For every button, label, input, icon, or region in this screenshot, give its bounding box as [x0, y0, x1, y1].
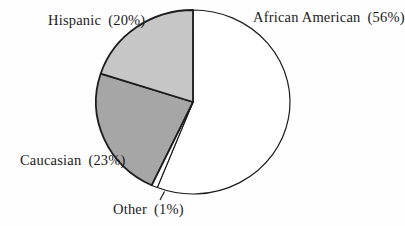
- label-hispanic-name: Hispanic: [48, 12, 101, 28]
- label-other-name: Other: [113, 201, 147, 217]
- label-african-american-name: African American: [253, 9, 360, 25]
- label-hispanic: Hispanic(20%): [48, 12, 145, 29]
- label-african-american: African American(56%): [253, 9, 405, 26]
- label-caucasian-name: Caucasian: [20, 152, 81, 168]
- label-african-american-pct: (56%): [367, 9, 404, 25]
- pie-chart: [0, 0, 405, 226]
- label-hispanic-pct: (20%): [108, 12, 145, 28]
- label-caucasian-pct: (23%): [88, 152, 125, 168]
- label-other-pct: (1%): [154, 201, 184, 217]
- other-leader-line: [160, 192, 165, 201]
- label-caucasian: Caucasian(23%): [20, 152, 126, 169]
- pie-chart-figure: Hispanic(20%) African American(56%) Cauc…: [0, 0, 405, 226]
- label-other: Other(1%): [113, 201, 184, 218]
